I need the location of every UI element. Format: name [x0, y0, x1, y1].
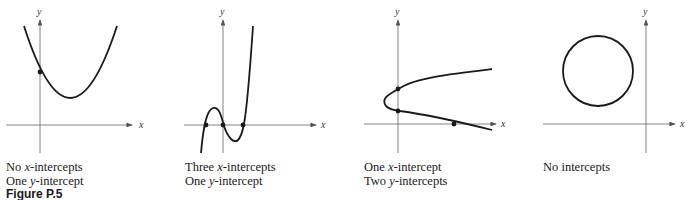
x-axis-label: x — [500, 118, 506, 129]
y-intercept-point-1 — [396, 87, 401, 92]
caption-line-2: One y-intercept — [185, 174, 276, 188]
x-intercept-point-2 — [221, 123, 226, 128]
sideways-parabola-curve — [384, 69, 492, 130]
circle-curve — [563, 36, 633, 106]
panel-cubic: x y Three x-intercepts One y-intercept — [170, 0, 340, 200]
x-axis-label: x — [138, 119, 144, 130]
parabola-curve — [24, 26, 117, 98]
sideways-parabola-graph: x y — [340, 0, 510, 160]
caption-sideways-parabola: One x-intercept Two y-intercepts — [364, 160, 448, 188]
x-intercept-point-3 — [241, 123, 246, 128]
caption-circle: No intercepts — [543, 160, 610, 174]
y-intercept-point-2 — [396, 109, 401, 114]
y-intercept-point — [38, 70, 43, 75]
parabola-graph: x y — [0, 0, 170, 160]
x-intercept-point — [452, 122, 457, 127]
y-axis-label: y — [642, 6, 648, 17]
caption-line-1: Three x-intercepts — [185, 160, 276, 174]
x-axis-label: x — [320, 119, 326, 130]
circle-graph: x y — [509, 0, 689, 160]
caption-line-2: One y-intercept — [6, 174, 83, 188]
y-axis-label: y — [219, 6, 225, 17]
cubic-graph: x y — [170, 0, 340, 160]
figure-label: Figure P.5 — [6, 187, 62, 200]
panel-parabola: x y No x-intercepts One y-intercept — [0, 0, 170, 200]
panel-circle: x y No intercepts — [509, 0, 689, 200]
caption-line-1: One x-intercept — [364, 160, 448, 174]
x-intercept-point-1 — [204, 123, 209, 128]
x-axis-label: x — [679, 118, 685, 129]
caption-cubic: Three x-intercepts One y-intercept — [185, 160, 276, 188]
panel-sideways-parabola: x y One x-intercept Two y-intercepts — [340, 0, 510, 200]
caption-parabola: No x-intercepts One y-intercept — [6, 160, 83, 188]
caption-line-2: Two y-intercepts — [364, 174, 448, 188]
y-axis-label: y — [36, 6, 42, 17]
cubic-curve — [201, 26, 253, 153]
caption-line-1: No x-intercepts — [6, 160, 83, 174]
y-axis-label: y — [394, 6, 400, 17]
caption-line-1: No intercepts — [543, 160, 610, 174]
